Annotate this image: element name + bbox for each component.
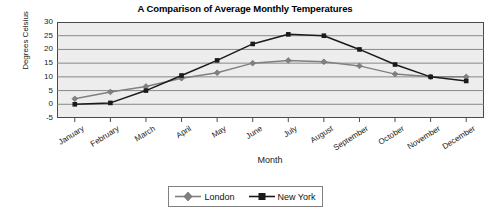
legend-label-london: London: [204, 192, 234, 202]
y-tick-label: 30: [44, 18, 53, 26]
data-point-marker: [464, 79, 469, 84]
data-point-marker: [179, 73, 184, 78]
plot-svg: [57, 22, 484, 118]
y-axis-tick-labels: 302520151050-5: [28, 22, 55, 118]
legend-marker-diamond-icon: [175, 191, 201, 202]
chart-legend: London New York: [168, 186, 323, 207]
data-point-marker: [357, 63, 363, 69]
data-point-marker: [428, 75, 433, 80]
data-point-marker: [250, 42, 255, 47]
data-point-marker: [215, 58, 220, 63]
data-point-marker: [72, 102, 77, 107]
data-point-marker: [72, 96, 78, 102]
legend-marker-square-icon: [249, 191, 275, 202]
plot-area: [57, 22, 484, 118]
data-point-marker: [214, 70, 220, 76]
data-point-marker: [250, 60, 256, 66]
data-point-marker: [392, 71, 398, 77]
data-point-marker: [144, 88, 149, 93]
y-tick-label: -5: [46, 114, 53, 122]
legend-item-london: London: [175, 191, 234, 202]
data-point-marker: [107, 89, 113, 95]
temperature-line-chart: A Comparison of Average Monthly Temperat…: [0, 0, 490, 221]
data-point-marker: [393, 62, 398, 67]
y-tick-label: 5: [49, 87, 53, 95]
y-tick-label: 20: [44, 45, 53, 53]
series-line-new-york: [75, 34, 466, 104]
x-axis-title: Month: [55, 155, 485, 165]
data-point-marker: [108, 101, 113, 106]
x-axis-tick-labels: JanuaryFebruaryMarchAprilMayJuneJulyAugu…: [57, 124, 484, 158]
data-point-marker: [285, 58, 291, 64]
legend-label-new-york: New York: [278, 192, 316, 202]
data-point-marker: [357, 47, 362, 52]
chart-title: A Comparison of Average Monthly Temperat…: [0, 3, 490, 14]
data-point-marker: [286, 32, 291, 37]
legend-item-new-york: New York: [249, 191, 316, 202]
series-line-london: [75, 60, 466, 98]
y-tick-label: 0: [49, 100, 53, 108]
y-tick-label: 15: [44, 59, 53, 67]
y-tick-label: 10: [44, 73, 53, 81]
data-point-marker: [322, 33, 327, 38]
y-tick-label: 25: [44, 32, 53, 40]
data-point-marker: [321, 59, 327, 65]
